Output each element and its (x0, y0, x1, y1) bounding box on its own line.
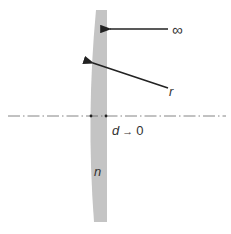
label-radius: r (169, 85, 173, 98)
vertex-point-left (90, 115, 93, 118)
lens-diagram (0, 0, 231, 234)
label-infinity: ∞ (172, 22, 183, 37)
label-refractive-index: n (94, 165, 101, 178)
vertex-point-right (105, 115, 108, 118)
label-thickness: d → 0 (112, 124, 144, 137)
